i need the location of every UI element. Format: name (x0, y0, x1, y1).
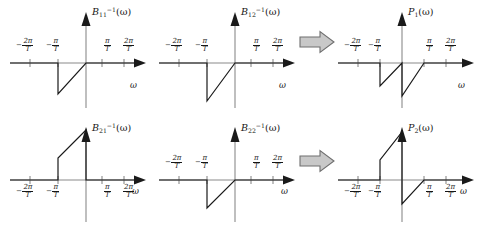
ticklabel-pos-pi: πT (253, 38, 260, 53)
title-arg: (ω) (418, 122, 433, 133)
ticklabel-neg-2pi: −2πT (344, 184, 361, 199)
ticklabel-neg-pi: −πT (46, 38, 59, 53)
x-axis-label: ω (458, 80, 465, 90)
y-axis-arrowhead (82, 12, 91, 26)
panel-title-p1: P1(ω) (408, 6, 434, 18)
title-sup: −1 (256, 122, 265, 129)
panel-p1: P1(ω) −2πT −πT πT 2πT ω (336, 8, 478, 113)
ticklabel-neg-pi: −πT (368, 184, 381, 199)
panel-b21: B21−1(ω) −2πT −πT πT 2πT ω (8, 118, 148, 228)
title-arg: (ω) (116, 122, 131, 133)
x-axis-label: ω (460, 186, 467, 196)
block-arrow-row-2 (299, 149, 335, 173)
x-axis-label: ω (132, 186, 139, 196)
panel-b22: B22−1(ω) −2πT −πT πT 2πT ω (157, 118, 297, 228)
title-sub: 21 (99, 127, 107, 134)
ticklabel-pos-2pi: 2πT (272, 38, 283, 53)
curve-b21 (10, 130, 136, 180)
plot-b12 (157, 8, 297, 113)
title-sub: 12 (248, 11, 256, 18)
panel-title-b22: B22−1(ω) (241, 122, 280, 134)
block-arrow-row-1 (299, 30, 335, 54)
ticklabel-pos-2pi: 2πT (445, 38, 456, 53)
plot-p2 (336, 118, 478, 228)
panel-b12: B12−1(ω) −2πT −πT πT 2πT ω (157, 8, 297, 113)
title-arg: (ω) (265, 6, 280, 17)
y-axis-arrowhead (398, 12, 407, 26)
title-sup: −1 (107, 122, 116, 129)
x-axis-label: ω (130, 80, 137, 90)
title-sub: 11 (99, 11, 107, 18)
plot-b21 (8, 118, 148, 228)
ticklabel-neg-pi: −πT (46, 184, 59, 199)
panel-title-p2: P2(ω) (408, 122, 434, 134)
ticklabel-neg-pi: −πT (368, 38, 381, 53)
plot-b22 (157, 118, 297, 228)
x-axis-label: ω (279, 80, 286, 90)
ticklabel-pos-pi: πT (104, 38, 111, 53)
ticklabel-neg-2pi: −2πT (16, 38, 33, 53)
title-sup: −1 (107, 6, 116, 13)
ticklabel-pos-2pi: 2πT (123, 38, 134, 53)
title-arg: (ω) (265, 122, 280, 133)
right-arrow-shape (300, 32, 334, 53)
ticklabel-neg-2pi: −2πT (165, 155, 182, 170)
ticklabel-neg-2pi: −2πT (165, 38, 182, 53)
panel-title-b21: B21−1(ω) (92, 122, 131, 134)
y-axis-arrowhead (231, 12, 240, 26)
ticklabel-neg-2pi: −2πT (16, 184, 33, 199)
title-arg: (ω) (418, 6, 433, 17)
ticklabel-pos-pi: πT (426, 38, 433, 53)
ticklabel-pos-pi: πT (253, 155, 260, 170)
panel-title-b11: B11−1(ω) (92, 6, 131, 18)
ticklabel-pos-2pi: 2πT (445, 184, 456, 199)
right-arrow-icon (299, 30, 335, 54)
plot-p1 (336, 8, 478, 113)
ticklabel-neg-pi: −πT (195, 155, 208, 170)
ticklabel-neg-pi: −πT (195, 38, 208, 53)
panel-b11: B11−1(ω) −2πT −πT πT 2πT ω (8, 8, 148, 113)
ticklabel-pos-2pi: 2πT (272, 155, 283, 170)
title-sup: −1 (256, 6, 265, 13)
title-arg: (ω) (116, 6, 131, 17)
curve-b12 (159, 63, 285, 101)
y-axis-arrowhead (231, 127, 240, 142)
curve-b22 (159, 180, 285, 208)
ticklabel-neg-2pi: −2πT (344, 38, 361, 53)
panel-p2: P2(ω) −2πT −πT πT 2πT ω (336, 118, 478, 228)
curve-p1 (338, 63, 464, 96)
right-arrow-shape (300, 151, 334, 172)
panel-title-b12: B12−1(ω) (241, 6, 280, 18)
ticklabel-pos-pi: πT (426, 184, 433, 199)
plot-b11 (8, 8, 148, 113)
right-arrow-icon (299, 149, 335, 173)
figure-root: B11−1(ω) −2πT −πT πT 2πT ω B (0, 0, 484, 237)
x-axis-label: ω (281, 186, 288, 196)
curve-b11 (10, 63, 136, 94)
title-sub: 22 (248, 127, 256, 134)
ticklabel-pos-pi: πT (104, 184, 111, 199)
